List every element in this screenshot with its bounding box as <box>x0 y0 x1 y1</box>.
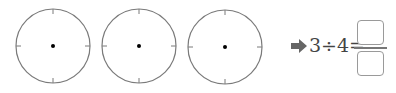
fraction-bar <box>354 47 387 49</box>
numerator-answer-box[interactable] <box>357 20 384 45</box>
circle-1 <box>16 9 90 83</box>
right-arrow-icon <box>291 39 307 53</box>
circles-diagram <box>0 0 280 93</box>
center-dot <box>51 44 55 48</box>
denominator-answer-box[interactable] <box>357 51 384 76</box>
circle-3 <box>188 10 262 84</box>
division-equation: 3÷4= <box>291 0 396 93</box>
center-dot <box>137 44 141 48</box>
circle-2 <box>102 9 176 83</box>
center-dot <box>223 45 227 49</box>
